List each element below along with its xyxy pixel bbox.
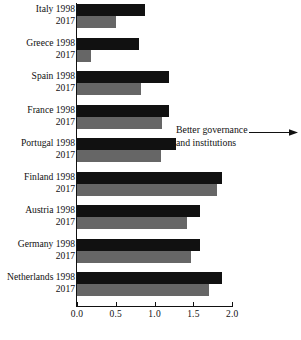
bar-spain-1998 — [77, 71, 169, 83]
bar-row: 2017 — [0, 50, 301, 62]
bar-austria-2017 — [77, 217, 187, 229]
bar-row: Finland 1998 — [0, 172, 301, 184]
bar-finland-2017 — [77, 184, 217, 196]
bar-netherlands-1998 — [77, 272, 222, 284]
x-axis-tick-label: 0.5 — [110, 309, 122, 319]
bar-greece-1998 — [77, 38, 139, 50]
bar-row-label: 2017 — [56, 49, 75, 61]
bar-row-label: Italy 1998 — [36, 3, 75, 15]
bar-row-label: Spain 1998 — [32, 70, 75, 82]
bar-france-2017 — [77, 117, 162, 129]
bar-row-label: Portugal 1998 — [21, 137, 75, 149]
x-axis-tick-label: 1.0 — [148, 309, 160, 319]
bar-austria-1998 — [77, 205, 200, 217]
bar-portugal-2017 — [77, 150, 161, 162]
bar-row-label: Austria 1998 — [25, 204, 75, 216]
bar-row-label: 2017 — [56, 82, 75, 94]
bar-row-label: 2017 — [56, 283, 75, 295]
bar-spain-2017 — [77, 83, 141, 95]
bar-group-netherlands: Netherlands 19982017 — [0, 272, 301, 296]
bar-row: 2017 — [0, 251, 301, 263]
bar-row: Netherlands 1998 — [0, 272, 301, 284]
bar-row: Italy 1998 — [0, 4, 301, 16]
bar-group-greece: Greece 19982017 — [0, 38, 301, 62]
bar-row-label: 2017 — [56, 216, 75, 228]
x-axis-tick — [116, 302, 117, 307]
bar-row: France 1998 — [0, 105, 301, 117]
x-axis-tick — [155, 302, 156, 307]
annotation-line-2: and institutions — [176, 136, 301, 149]
plot-area: 0.00.51.01.52.0 Italy 19982017Greece 199… — [0, 0, 301, 340]
bar-row-label: 2017 — [56, 183, 75, 195]
bar-row: Greece 1998 — [0, 38, 301, 50]
bar-italy-2017 — [77, 16, 116, 28]
bar-portugal-1998 — [77, 138, 176, 150]
bar-group-finland: Finland 19982017 — [0, 172, 301, 196]
bar-greece-2017 — [77, 50, 91, 62]
x-axis-tick-label: 1.5 — [187, 309, 199, 319]
bar-row-label: 2017 — [56, 15, 75, 27]
bar-group-spain: Spain 19982017 — [0, 71, 301, 95]
bar-germany-2017 — [77, 251, 191, 263]
bar-group-austria: Austria 19982017 — [0, 205, 301, 229]
x-axis-tick — [193, 302, 194, 307]
bar-group-italy: Italy 19982017 — [0, 4, 301, 28]
bar-chart: 0.00.51.01.52.0 Italy 19982017Greece 199… — [0, 0, 301, 340]
bar-italy-1998 — [77, 4, 145, 16]
bar-row: 2017 — [0, 16, 301, 28]
x-axis-tick-label: 0.0 — [71, 309, 83, 319]
bar-france-1998 — [77, 105, 169, 117]
bar-row-label: France 1998 — [27, 104, 75, 116]
x-axis-tick — [232, 302, 233, 307]
bar-row-label: Greece 1998 — [26, 37, 75, 49]
bar-row: Germany 1998 — [0, 239, 301, 251]
bar-row-label: 2017 — [56, 149, 75, 161]
bar-row: 2017 — [0, 83, 301, 95]
bar-row: Austria 1998 — [0, 205, 301, 217]
bar-row: Spain 1998 — [0, 71, 301, 83]
arrow-right-icon — [249, 128, 299, 137]
bar-row: 2017 — [0, 150, 301, 162]
bar-row-label: Finland 1998 — [24, 171, 75, 183]
bar-row: 2017 — [0, 284, 301, 296]
x-axis-tick-label: 2.0 — [226, 309, 238, 319]
bar-row-label: Netherlands 1998 — [7, 271, 75, 283]
bar-netherlands-2017 — [77, 284, 209, 296]
x-axis-tick — [77, 302, 78, 307]
bar-finland-1998 — [77, 172, 222, 184]
bar-row-label: Germany 1998 — [18, 238, 75, 250]
bar-row-label: 2017 — [56, 116, 75, 128]
bar-row: 2017 — [0, 217, 301, 229]
bar-group-germany: Germany 19982017 — [0, 239, 301, 263]
bar-row: 2017 — [0, 184, 301, 196]
bar-germany-1998 — [77, 239, 200, 251]
bar-row-label: 2017 — [56, 250, 75, 262]
